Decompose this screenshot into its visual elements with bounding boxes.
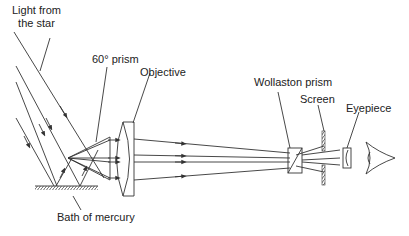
optical-diagram: Light from the star 60° prism Objective … [0, 0, 409, 236]
diagram-drawing [0, 0, 409, 236]
light-from-star-line2: the star [12, 17, 61, 30]
light-from-star-line1: Light from [12, 4, 61, 17]
objective-label: Objective [140, 66, 186, 79]
light-from-star-label: Light from the star [12, 4, 61, 30]
eye [366, 142, 395, 174]
wollaston-prism-label: Wollaston prism [254, 76, 332, 89]
screen-label: Screen [300, 93, 335, 106]
prism-label: 60° prism [92, 53, 139, 66]
eyepiece-label: Eyepiece [346, 102, 391, 115]
incoming-star-rays [14, 32, 104, 186]
eyepiece [343, 148, 351, 168]
wollaston-prism [288, 148, 302, 173]
focused-rays [134, 139, 290, 180]
objective-lens [117, 122, 135, 196]
screen [322, 131, 325, 185]
mercury-bath [35, 186, 98, 190]
mercury-bath-label: Bath of mercury [57, 211, 135, 224]
